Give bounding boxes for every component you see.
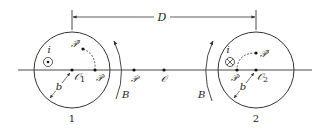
loop-2-field-arrow: [206, 41, 213, 101]
axis-points: 𝒫 𝒪: [131, 68, 169, 84]
loop-2-field-label: B: [197, 89, 205, 100]
loop-2-p-prime-point: [235, 68, 238, 71]
loop-1-current-label: i: [47, 44, 50, 55]
loop-1-dashed-arc: [83, 49, 95, 69]
loop-1: i 𝒪1 b 𝒫′ 𝒫″ B 1: [34, 32, 129, 124]
current-out-dot: [47, 61, 50, 64]
point-o-label: 𝒪: [161, 74, 169, 84]
point-p: [132, 68, 135, 71]
loop-1-number: 1: [69, 113, 75, 124]
loop-2-p-double-prime-label: 𝒫″: [260, 49, 270, 59]
point-p-label: 𝒫: [131, 74, 140, 84]
dimension-d: D: [72, 10, 256, 30]
loop-1-field-label: B: [121, 89, 129, 100]
loop-1-center-label: 𝒪1: [74, 71, 85, 84]
loop-2-current-label: i: [226, 44, 229, 55]
dimension-label: D: [157, 11, 167, 24]
loop-2-center-label: 𝒪2: [257, 71, 268, 84]
loop-2: i 𝒪2 b 𝒫′ 𝒫″ B 2: [197, 32, 294, 124]
loop-1-p-double-prime-label: 𝒫″: [71, 39, 81, 49]
loop-2-p-prime-label: 𝒫′: [231, 73, 240, 83]
point-o: [162, 68, 165, 71]
loop-2-dashed-arc: [237, 53, 256, 69]
two-loop-field-diagram: D i 𝒪1 b 𝒫′ 𝒫″ B 1 𝒫 𝒪: [0, 0, 327, 132]
loop-2-radius-label: b: [240, 81, 246, 92]
loop-2-number: 2: [253, 113, 259, 124]
loop-1-radius-label: b: [56, 81, 62, 92]
loop-1-p-prime-label: 𝒫′: [96, 73, 105, 83]
